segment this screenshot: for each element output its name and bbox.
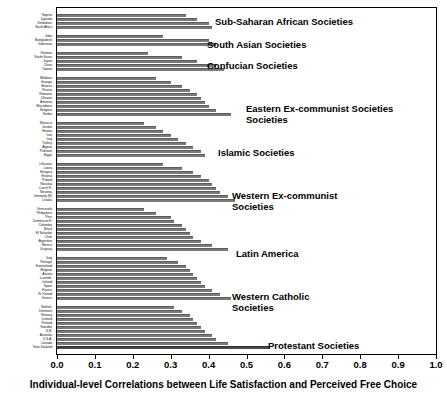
bar xyxy=(57,240,201,243)
bar xyxy=(57,89,190,92)
bar xyxy=(57,163,163,166)
bar xyxy=(57,39,209,42)
bar xyxy=(57,179,209,182)
bar xyxy=(57,257,167,260)
bar xyxy=(57,122,144,125)
group-label: Latin America xyxy=(236,248,298,259)
category-label: Egypt xyxy=(44,153,52,157)
bar xyxy=(57,199,235,202)
bar xyxy=(57,212,156,215)
bar xyxy=(57,232,190,235)
bar xyxy=(57,138,178,141)
x-tick-label: 0.8 xyxy=(354,359,367,370)
bar xyxy=(57,109,216,112)
bar xyxy=(57,85,182,88)
bar xyxy=(57,310,182,313)
bar xyxy=(57,334,212,337)
group-label-line: Societies xyxy=(232,302,309,313)
x-tick-label: 0.3 xyxy=(164,359,177,370)
category-label: New Zealand xyxy=(33,345,52,349)
bar xyxy=(57,43,216,46)
bar xyxy=(57,101,205,104)
bar xyxy=(57,150,201,153)
bar xyxy=(57,314,190,317)
bar xyxy=(57,297,231,300)
group-label: Confucian Societies xyxy=(207,60,298,71)
bar xyxy=(57,26,212,29)
group-label-line: Western Ex-communist xyxy=(232,190,337,201)
bar xyxy=(57,265,186,268)
category-label: Uruguay xyxy=(40,247,52,251)
bar xyxy=(57,113,231,116)
bar-chart: NigeriaUgandaZimbabweSouth AfricaIndiaBa… xyxy=(0,0,447,398)
category-label: Indonesia xyxy=(38,42,52,46)
group-label: South Asian Societies xyxy=(207,39,306,50)
group-label-line: Societies xyxy=(232,201,337,212)
bar xyxy=(57,64,216,67)
bar xyxy=(57,228,186,231)
bar xyxy=(57,208,144,211)
group-label: Western Ex-communistSocieties xyxy=(232,190,337,212)
bar xyxy=(57,81,171,84)
bar xyxy=(57,77,156,80)
bar xyxy=(57,187,216,190)
x-tick-label: 0.0 xyxy=(50,359,63,370)
bar xyxy=(57,269,190,272)
bar xyxy=(57,175,201,178)
x-tick-label: 0.1 xyxy=(88,359,101,370)
category-label: Serbia xyxy=(43,112,52,116)
bar xyxy=(57,261,178,264)
x-tick-label: 0.9 xyxy=(391,359,404,370)
bar xyxy=(57,126,156,129)
bar xyxy=(57,330,205,333)
bar xyxy=(57,281,201,284)
x-tick-label: 0.4 xyxy=(202,359,215,370)
bar xyxy=(57,293,220,296)
bar xyxy=(57,105,209,108)
category-label: Croatia xyxy=(42,198,52,202)
bar xyxy=(57,35,163,38)
bar xyxy=(57,285,205,288)
x-axis-title: Individual-level Correlations between Li… xyxy=(0,379,447,390)
bar xyxy=(57,248,228,251)
x-tick-label: 0.2 xyxy=(126,359,139,370)
bar xyxy=(57,167,182,170)
bar xyxy=(57,306,174,309)
group-label-line: Societies xyxy=(246,114,393,125)
bar xyxy=(57,236,193,239)
bar xyxy=(57,134,171,137)
bar xyxy=(57,195,228,198)
bar xyxy=(57,60,197,63)
bar xyxy=(57,154,205,157)
bar xyxy=(57,318,193,321)
bar xyxy=(57,22,209,25)
bar xyxy=(57,338,216,341)
bar xyxy=(57,56,182,59)
bar xyxy=(57,142,186,145)
bar xyxy=(57,171,193,174)
bar xyxy=(57,289,212,292)
x-tick-label: 0.5 xyxy=(240,359,253,370)
group-label: Islamic Societies xyxy=(218,147,295,158)
bar xyxy=(57,130,163,133)
category-label: South Africa xyxy=(35,25,52,29)
bar xyxy=(57,97,201,100)
bar xyxy=(57,220,174,223)
bar xyxy=(57,146,193,149)
bar xyxy=(57,52,148,55)
category-label: Taiwan xyxy=(42,67,52,71)
bar xyxy=(57,342,228,345)
category-axis-labels: NigeriaUgandaZimbabweSouth AfricaIndiaBa… xyxy=(0,7,54,355)
group-label-line: Western Catholic xyxy=(232,291,309,302)
bar xyxy=(57,191,220,194)
x-tick-label: 0.6 xyxy=(278,359,291,370)
x-axis: 0.00.10.20.30.40.50.60.70.80.91.0 xyxy=(56,355,437,375)
group-label-line: Eastern Ex-communist Societies xyxy=(246,103,393,114)
bar xyxy=(57,273,193,276)
group-label: Sub-Saharan African Societies xyxy=(215,16,353,27)
bar xyxy=(57,68,224,71)
bar xyxy=(57,18,197,21)
group-label: Eastern Ex-communist SocietiesSocieties xyxy=(246,103,393,125)
bar xyxy=(57,224,182,227)
bar xyxy=(57,183,212,186)
